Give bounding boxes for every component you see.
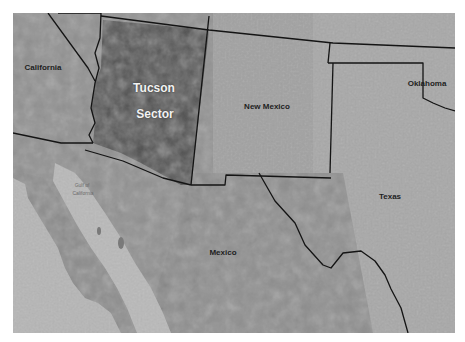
island-tiburon bbox=[118, 237, 124, 249]
label-tucson: Tucson bbox=[133, 82, 175, 94]
island-angel bbox=[97, 227, 101, 235]
relief-map bbox=[13, 13, 455, 333]
label-mexico: Mexico bbox=[209, 249, 236, 257]
label-sector: Sector bbox=[136, 108, 173, 120]
label-oklahoma: Oklahoma bbox=[408, 80, 447, 88]
label-new-mexico: New Mexico bbox=[244, 103, 290, 111]
label-gulf-line1: Gulf of bbox=[75, 183, 90, 188]
label-california: California bbox=[25, 64, 62, 72]
map-frame: California Tucson Sector New Mexico Okla… bbox=[13, 13, 455, 333]
label-gulf-line2: California bbox=[72, 191, 93, 196]
label-texas: Texas bbox=[379, 193, 401, 201]
